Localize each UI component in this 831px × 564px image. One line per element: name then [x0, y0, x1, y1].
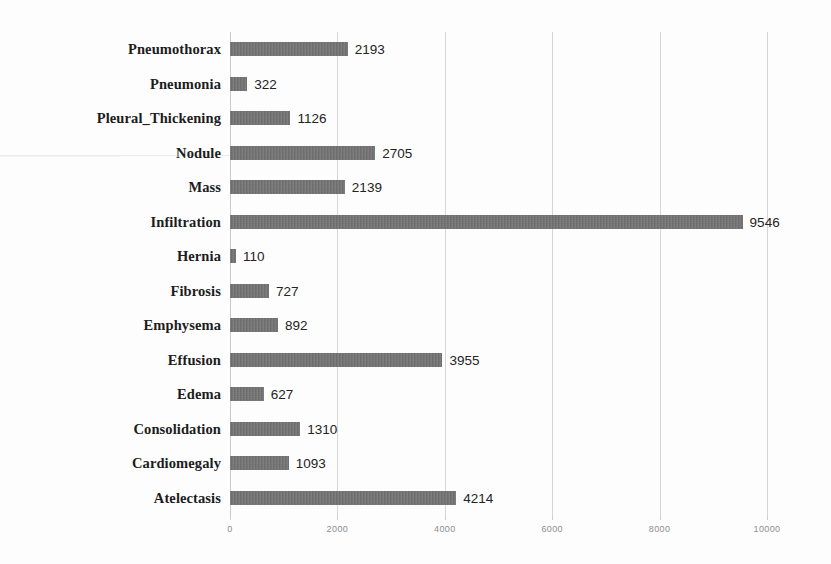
category-label-pneumonia: Pneumonia [150, 75, 221, 92]
category-label-edema: Edema [177, 386, 221, 403]
bar-pneumonia[interactable] [230, 77, 247, 91]
bar-row: Fibrosis727 [230, 274, 767, 309]
bar-row: Mass2139 [230, 170, 767, 205]
x-tick-label-8000: 8000 [649, 524, 671, 534]
bar-value-edema: 627 [271, 387, 294, 402]
bar-value-mass: 2139 [352, 180, 382, 195]
tick-mark-4000 [445, 515, 446, 520]
bar-atelectasis[interactable] [230, 491, 456, 505]
bar-row: Atelectasis4214 [230, 481, 767, 516]
bar-cardiomegaly[interactable] [230, 456, 289, 470]
category-label-infiltration: Infiltration [151, 213, 221, 230]
bar-row: Pneumonia322 [230, 67, 767, 102]
bar-chart-figure: Pneumothorax2193Pneumonia322Pleural_Thic… [0, 0, 831, 564]
bar-value-emphysema: 892 [285, 318, 308, 333]
tick-mark-0 [230, 515, 231, 520]
category-label-atelectasis: Atelectasis [154, 489, 221, 506]
bar-rows: Pneumothorax2193Pneumonia322Pleural_Thic… [230, 32, 767, 515]
category-label-emphysema: Emphysema [144, 317, 221, 334]
category-label-fibrosis: Fibrosis [171, 282, 222, 299]
x-tick-label-2000: 2000 [327, 524, 349, 534]
category-label-mass: Mass [188, 179, 221, 196]
bar-value-consolidation: 1310 [307, 421, 337, 436]
bar-hernia[interactable] [230, 249, 236, 263]
bar-value-pneumothorax: 2193 [355, 42, 385, 57]
bar-row: Consolidation1310 [230, 412, 767, 447]
bar-effusion[interactable] [230, 353, 442, 367]
bar-nodule[interactable] [230, 146, 375, 160]
bar-pneumothorax[interactable] [230, 42, 348, 56]
bar-value-infiltration: 9546 [750, 214, 780, 229]
category-label-pleural_thickening: Pleural_Thickening [97, 110, 221, 127]
bar-mass[interactable] [230, 180, 345, 194]
gridline-10000 [767, 32, 768, 515]
tick-mark-8000 [660, 515, 661, 520]
bar-value-hernia: 110 [243, 249, 265, 264]
bar-value-pneumonia: 322 [254, 76, 277, 91]
bar-pleural_thickening[interactable] [230, 111, 290, 125]
x-axis-tick-labels: 0200040006000800010000 [230, 524, 767, 544]
x-tick-label-6000: 6000 [541, 524, 563, 534]
category-label-nodule: Nodule [176, 144, 221, 161]
bar-row: Cardiomegaly1093 [230, 446, 767, 481]
bar-row: Emphysema892 [230, 308, 767, 343]
category-label-hernia: Hernia [177, 248, 221, 265]
bar-value-nodule: 2705 [382, 145, 412, 160]
bar-value-pleural_thickening: 1126 [297, 111, 326, 126]
bar-fibrosis[interactable] [230, 284, 269, 298]
x-tick-label-10000: 10000 [753, 524, 780, 534]
bar-value-cardiomegaly: 1093 [296, 456, 326, 471]
bar-row: Pneumothorax2193 [230, 32, 767, 67]
x-tick-label-4000: 4000 [434, 524, 456, 534]
tick-mark-10000 [767, 515, 768, 520]
category-label-effusion: Effusion [168, 351, 221, 368]
bar-infiltration[interactable] [230, 215, 743, 229]
bar-value-fibrosis: 727 [276, 283, 299, 298]
bar-edema[interactable] [230, 387, 264, 401]
bar-row: Infiltration9546 [230, 205, 767, 240]
category-label-cardiomegaly: Cardiomegaly [132, 455, 221, 472]
tick-mark-6000 [552, 515, 553, 520]
bar-consolidation[interactable] [230, 422, 300, 436]
x-tick-label-0: 0 [227, 524, 232, 534]
bar-row: Pleural_Thickening1126 [230, 101, 767, 136]
bar-row: Hernia110 [230, 239, 767, 274]
category-label-consolidation: Consolidation [133, 420, 221, 437]
bar-row: Effusion3955 [230, 343, 767, 378]
category-label-pneumothorax: Pneumothorax [128, 41, 221, 58]
bar-value-effusion: 3955 [449, 352, 479, 367]
plot-area: Pneumothorax2193Pneumonia322Pleural_Thic… [230, 32, 767, 515]
bar-row: Nodule2705 [230, 136, 767, 171]
bar-row: Edema627 [230, 377, 767, 412]
bar-value-atelectasis: 4214 [463, 490, 493, 505]
tick-mark-2000 [337, 515, 338, 520]
scan-artifact-line [0, 156, 120, 157]
bar-emphysema[interactable] [230, 318, 278, 332]
